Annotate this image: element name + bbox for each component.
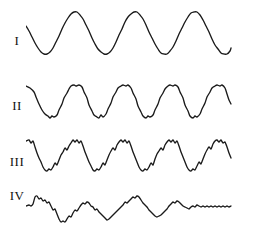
trace-plot-iii <box>26 124 236 182</box>
trace-plot-ii <box>26 66 236 128</box>
trace-label-ii: II <box>6 98 28 114</box>
trace-label-i: I <box>6 33 28 49</box>
trace-label-iii: III <box>6 154 28 170</box>
trace-path-iv <box>26 196 231 222</box>
trace-label-iv: IV <box>6 188 28 204</box>
trace-plot-i <box>26 0 236 62</box>
trace-plot-iv <box>26 180 236 238</box>
trace-path-i <box>26 12 231 55</box>
waveform-figure: I II III IV <box>0 0 267 239</box>
trace-path-ii <box>26 85 231 118</box>
trace-path-iii <box>26 140 231 171</box>
